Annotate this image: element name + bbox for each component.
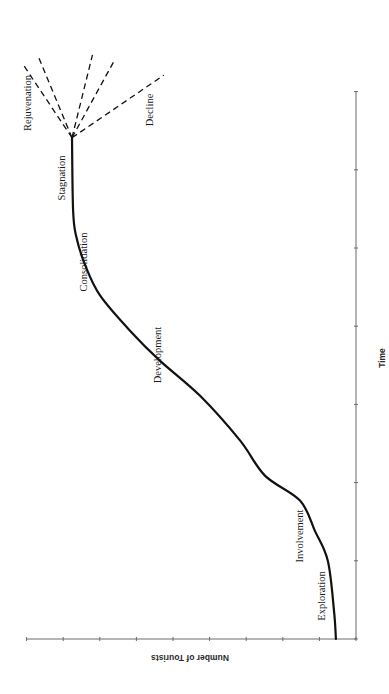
stage-label-exploration: Exploration xyxy=(316,570,327,620)
life-cycle-curve xyxy=(72,138,336,639)
stage-label-development: Development xyxy=(152,327,163,384)
tourism-life-cycle-chart: Exploration Involvement Development Cons… xyxy=(0,0,389,694)
stage-label-decline: Decline xyxy=(144,93,155,126)
time-axis xyxy=(354,91,358,639)
stage-label-involvement: Involvement xyxy=(294,509,305,562)
stage-label-rejuvenation: Rejuvenation xyxy=(22,74,33,131)
y-axis-title: Number of Tourists xyxy=(151,653,229,663)
stage-label-stagnation: Stagnation xyxy=(56,155,67,201)
dashed-scenario-line xyxy=(38,55,72,138)
future-scenario-lines xyxy=(23,55,164,138)
tourists-axis xyxy=(26,637,356,641)
x-axis-title: Time xyxy=(377,348,387,368)
stage-label-consolidation: Consolidation xyxy=(78,232,89,292)
dashed-scenario-line xyxy=(72,60,114,137)
